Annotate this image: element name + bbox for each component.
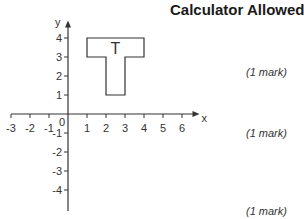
- x-tick-label: 3: [122, 122, 128, 134]
- x-tick-label: -2: [25, 122, 35, 134]
- y-tick-label: 4: [56, 32, 62, 44]
- y-tick-label: -1: [52, 127, 62, 139]
- x-axis-arrow-icon: [193, 111, 200, 117]
- x-tick-label: 6: [179, 122, 185, 134]
- y-tick-label: -2: [52, 146, 62, 158]
- t-shape-label: T: [111, 40, 121, 57]
- x-tick-label: 2: [103, 122, 109, 134]
- y-tick-label: 1: [56, 89, 62, 101]
- y-tick-label: 3: [56, 51, 62, 63]
- coordinate-grid: xy-3-2-10123456-4-3-2-11234T: [0, 0, 304, 219]
- y-axis-label: y: [55, 16, 61, 28]
- x-tick-label: 1: [84, 122, 90, 134]
- y-tick-label: -3: [52, 165, 62, 177]
- x-tick-label: 4: [141, 122, 147, 134]
- y-axis-arrow-icon: [65, 21, 71, 28]
- x-tick-label: -3: [6, 122, 16, 134]
- y-tick-label: 2: [56, 70, 62, 82]
- x-axis-label: x: [202, 112, 208, 124]
- x-tick-label: 5: [160, 122, 166, 134]
- y-tick-label: -4: [52, 184, 62, 196]
